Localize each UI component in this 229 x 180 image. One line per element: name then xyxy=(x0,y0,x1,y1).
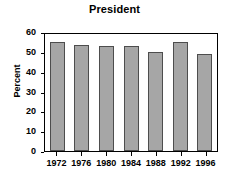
x-tick-mark xyxy=(56,152,57,156)
y-tick-mark xyxy=(41,73,44,74)
bar[interactable] xyxy=(74,45,89,151)
bar-slot xyxy=(168,34,193,151)
bar-slot xyxy=(94,34,119,151)
y-tick-mark xyxy=(41,112,44,113)
x-tick-label: 1976 xyxy=(69,158,94,168)
x-tick-label: 1996 xyxy=(193,158,218,168)
y-tick-label: 60 xyxy=(2,27,36,38)
x-tick xyxy=(119,152,144,156)
x-tick-mark xyxy=(131,152,132,156)
x-tick-mark xyxy=(206,152,207,156)
x-axis-ticks xyxy=(44,152,218,156)
chart-title: President xyxy=(0,3,229,15)
x-tick xyxy=(168,152,193,156)
x-tick xyxy=(69,152,94,156)
x-tick-mark xyxy=(81,152,82,156)
plot-area xyxy=(44,33,218,152)
bar-slot xyxy=(119,34,144,151)
bar[interactable] xyxy=(124,46,139,151)
y-tick-mark xyxy=(41,33,44,34)
bar[interactable] xyxy=(99,46,114,151)
x-tick-label: 1992 xyxy=(168,158,193,168)
y-tick-label: 30 xyxy=(2,87,36,98)
x-tick-mark xyxy=(181,152,182,156)
bar[interactable] xyxy=(173,42,188,151)
x-tick-label: 1972 xyxy=(44,158,69,168)
y-tick-mark xyxy=(41,132,44,133)
bar[interactable] xyxy=(50,42,65,151)
bar[interactable] xyxy=(148,52,163,151)
x-axis-labels: 1972197619801984198819921996 xyxy=(44,158,218,168)
x-tick xyxy=(193,152,218,156)
y-tick-label: 40 xyxy=(2,67,36,78)
y-tick-label: 10 xyxy=(2,126,36,137)
y-tick-mark xyxy=(41,93,44,94)
bar-slot xyxy=(192,34,217,151)
y-tick-label: 50 xyxy=(2,47,36,58)
chart-figure: President Percent 6050403020100 19721976… xyxy=(0,0,229,180)
bar-series xyxy=(45,34,217,151)
y-tick-label: 0 xyxy=(2,146,36,157)
y-tick-label: 20 xyxy=(2,106,36,117)
x-tick-label: 1984 xyxy=(119,158,144,168)
bar-slot xyxy=(45,34,70,151)
x-tick-mark xyxy=(156,152,157,156)
x-tick-label: 1980 xyxy=(94,158,119,168)
bar-slot xyxy=(70,34,95,151)
x-tick-mark xyxy=(106,152,107,156)
bar-slot xyxy=(143,34,168,151)
bar[interactable] xyxy=(197,54,212,151)
x-tick xyxy=(94,152,119,156)
y-tick-mark xyxy=(41,53,44,54)
y-axis-title: Percent xyxy=(12,51,22,111)
x-tick xyxy=(143,152,168,156)
x-tick-label: 1988 xyxy=(143,158,168,168)
x-tick xyxy=(44,152,69,156)
